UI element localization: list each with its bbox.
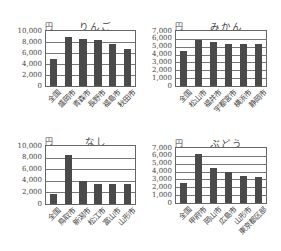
bar: [240, 176, 248, 203]
y-tick-label: 4,000: [138, 168, 172, 175]
y-tick-label: 5,000: [138, 43, 172, 50]
bar: [109, 184, 116, 204]
gridline: [46, 169, 135, 170]
bar: [210, 168, 218, 203]
y-tick-label: 0: [138, 200, 172, 207]
gridline: [176, 195, 266, 196]
gridline: [176, 55, 266, 56]
gridline: [176, 179, 266, 180]
bar: [225, 44, 233, 86]
y-tick-label: 10,000: [8, 28, 42, 35]
bar: [240, 44, 248, 86]
y-tick-label: 1,000: [138, 75, 172, 82]
bar: [79, 181, 86, 204]
bar: [94, 40, 101, 86]
gridline: [46, 75, 135, 76]
y-tick-label: 5,000: [138, 160, 172, 167]
gridline: [46, 192, 135, 193]
y-tick-label: 0: [138, 83, 172, 90]
bar: [255, 177, 263, 203]
gridline: [176, 156, 266, 157]
bar: [79, 39, 86, 86]
y-tick-label: 6,000: [8, 166, 42, 173]
gridline: [176, 78, 266, 79]
bar: [195, 154, 203, 204]
y-tick-label: 2,000: [8, 189, 42, 196]
gridline: [176, 39, 266, 40]
y-tick-label: 0: [8, 83, 42, 90]
y-tick-label: 6,000: [8, 50, 42, 57]
bar: [255, 44, 263, 86]
gridline: [176, 70, 266, 71]
y-tick-label: 8,000: [8, 39, 42, 46]
gridline: [176, 47, 266, 48]
bar: [180, 183, 188, 203]
y-tick-label: 10,000: [8, 143, 42, 150]
gridline: [46, 42, 135, 43]
bar: [195, 40, 203, 86]
bar: [50, 59, 57, 87]
y-tick-label: 1,000: [138, 192, 172, 199]
y-tick-label: 7,000: [138, 145, 172, 152]
y-tick-label: 3,000: [138, 59, 172, 66]
y-tick-label: 4,000: [8, 61, 42, 68]
y-tick-label: 2,000: [138, 184, 172, 191]
bar: [50, 194, 57, 204]
gridline: [176, 62, 266, 63]
y-tick-label: 6,000: [138, 35, 172, 42]
bar: [124, 49, 131, 86]
y-tick-label: 4,000: [8, 177, 42, 184]
bar: [124, 184, 131, 204]
y-tick-label: 3,000: [138, 176, 172, 183]
gridline: [176, 187, 266, 188]
gridline: [46, 64, 135, 65]
bar: [109, 44, 116, 86]
bar: [65, 37, 72, 86]
plot-area: [175, 147, 267, 204]
plot-area: [45, 30, 136, 87]
y-tick-label: 2,000: [138, 67, 172, 74]
plot-area: [175, 30, 267, 87]
gridline: [46, 53, 135, 54]
y-tick-label: 7,000: [138, 28, 172, 35]
y-tick-label: 8,000: [8, 154, 42, 161]
y-tick-label: 2,000: [8, 72, 42, 79]
bar: [225, 172, 233, 203]
bar: [180, 51, 188, 86]
gridline: [176, 164, 266, 165]
y-tick-label: 0: [8, 201, 42, 208]
y-tick-label: 4,000: [138, 51, 172, 58]
gridline: [46, 158, 135, 159]
gridline: [176, 172, 266, 173]
plot-area: [45, 145, 136, 205]
bar: [65, 155, 72, 204]
y-tick-label: 6,000: [138, 152, 172, 159]
gridline: [46, 181, 135, 182]
bar: [210, 42, 218, 86]
bar: [94, 184, 101, 204]
